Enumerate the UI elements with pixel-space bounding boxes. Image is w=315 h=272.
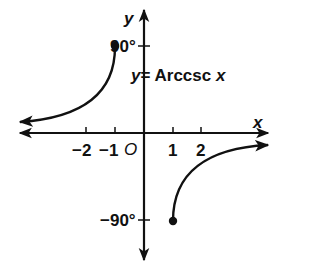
y-axis-label: y: [123, 9, 135, 28]
x-tick-label-neg2: −2: [72, 141, 91, 160]
right-branch-endpoint: [169, 217, 177, 225]
x-tick-label-1: 1: [168, 141, 177, 160]
y-tick-label-neg90: −90°: [100, 211, 136, 230]
equation-var: x: [215, 66, 227, 85]
equation-rhs: = Arccsc: [140, 66, 215, 85]
x-axis-label: x: [252, 113, 264, 132]
equation-label: y= Arccsc x: [130, 66, 227, 85]
y-axis: [138, 10, 150, 260]
arccsc-graph: y x O −2 −1 1 2 90° −90° y= Arccsc x: [0, 0, 315, 272]
left-branch: [20, 42, 119, 122]
right-branch: [169, 145, 268, 225]
origin-label: O: [124, 140, 137, 159]
left-branch-endpoint: [111, 42, 119, 50]
x-tick-label-2: 2: [196, 141, 205, 160]
x-tick-label-neg1: −1: [99, 141, 118, 160]
